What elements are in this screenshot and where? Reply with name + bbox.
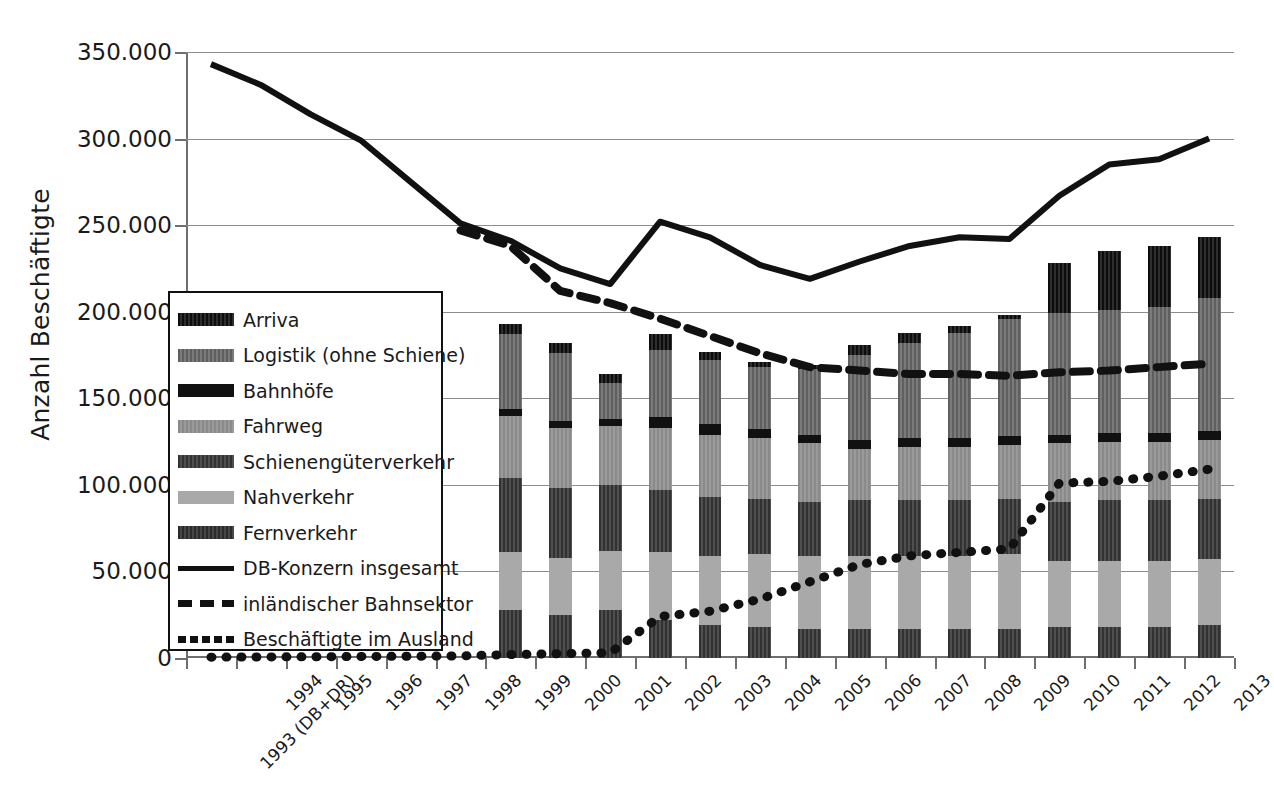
bar-segment (948, 438, 971, 447)
legend-item[interactable]: Fernverkehr (178, 515, 441, 551)
y-tick-label: 350.000 (77, 39, 172, 65)
x-tick-label: 2002 (681, 670, 726, 715)
bar-segment (599, 426, 622, 485)
bar-segment (699, 556, 722, 625)
bar-segment (1148, 500, 1171, 561)
y-tick-label: 100.000 (77, 472, 172, 498)
bar-segment (1198, 625, 1221, 658)
bar-column[interactable] (948, 326, 971, 658)
bar-segment (649, 350, 672, 418)
bar-segment (848, 440, 871, 449)
bar-column[interactable] (848, 345, 871, 658)
x-tick-label: 1997 (431, 670, 476, 715)
bar-segment (798, 629, 821, 658)
legend-item[interactable]: Beschäftigte im Ausland (178, 622, 441, 658)
bar-segment (848, 345, 871, 355)
bar-segment (798, 435, 821, 444)
gridline (186, 52, 1234, 53)
bar-segment (499, 416, 522, 478)
bar-segment (699, 352, 722, 361)
bar-column[interactable] (499, 324, 522, 658)
bar-segment (748, 362, 771, 367)
bar-column[interactable] (1048, 263, 1071, 658)
bar-segment (748, 499, 771, 554)
legend-swatch-icon (178, 491, 234, 504)
legend-solid-line-icon (178, 566, 234, 571)
bar-segment (948, 629, 971, 658)
y-tick-mark (175, 658, 186, 660)
y-tick-mark (175, 225, 186, 227)
bar-column[interactable] (748, 362, 771, 658)
x-tick-label: 2008 (980, 670, 1025, 715)
bar-column[interactable] (798, 365, 821, 658)
bar-segment (898, 333, 921, 343)
legend-label: Logistik (ohne Schiene) (243, 344, 465, 366)
bar-segment (998, 319, 1021, 437)
bar-segment (699, 360, 722, 424)
bar-segment (798, 443, 821, 502)
bar-segment (748, 627, 771, 658)
legend-item[interactable]: Schienengüterverkehr (178, 444, 441, 480)
bar-segment (649, 417, 672, 427)
bar-segment (1048, 502, 1071, 561)
legend-item[interactable]: Nahverkehr (178, 480, 441, 516)
legend-swatch-icon (178, 313, 234, 326)
x-tick-label: 1999 (531, 670, 576, 715)
bar-segment (649, 490, 672, 552)
bar-segment (948, 333, 971, 439)
bar-segment (748, 429, 771, 438)
legend-item[interactable]: inländischer Bahnsektor (178, 586, 441, 622)
bar-segment (1148, 442, 1171, 501)
bar-segment (1048, 263, 1071, 313)
bar-column[interactable] (1098, 251, 1121, 658)
bar-segment (1148, 433, 1171, 442)
legend-swatch-icon (178, 420, 234, 433)
bar-column[interactable] (649, 334, 672, 658)
bar-segment (649, 428, 672, 490)
bar-segment (998, 554, 1021, 628)
x-tick-label: 2005 (830, 670, 875, 715)
bar-segment (998, 629, 1021, 658)
legend-item[interactable]: Bahnhöfe (178, 373, 441, 409)
bar-segment (798, 369, 821, 435)
bar-column[interactable] (1148, 246, 1171, 658)
bar-segment (898, 343, 921, 438)
bar-segment (1098, 433, 1121, 442)
bar-column[interactable] (549, 343, 572, 658)
bar-column[interactable] (898, 333, 921, 659)
bar-segment (1148, 627, 1171, 658)
legend-label: Nahverkehr (243, 486, 354, 508)
bar-segment (1198, 559, 1221, 625)
bar-column[interactable] (699, 352, 722, 658)
legend-swatch-icon (178, 384, 234, 397)
y-tick-label: 50.000 (92, 558, 172, 584)
x-tick-label: 2001 (631, 670, 676, 715)
legend-item[interactable]: DB-Konzern insgesamt (178, 551, 441, 587)
bar-segment (1048, 435, 1071, 444)
bar-segment (699, 497, 722, 556)
legend-swatch-icon (178, 526, 234, 539)
bar-segment (549, 353, 572, 421)
bar-segment (599, 610, 622, 658)
x-tick-label: 2004 (781, 670, 826, 715)
bar-segment (499, 324, 522, 334)
bar-segment (948, 556, 971, 629)
bar-segment (1048, 561, 1071, 627)
bar-segment (848, 629, 871, 658)
bar-column[interactable] (1198, 237, 1221, 658)
bar-segment (1098, 500, 1121, 561)
bar-segment (599, 551, 622, 610)
bar-column[interactable] (599, 374, 622, 658)
legend-item[interactable]: Arriva (178, 302, 441, 338)
line-series (211, 64, 1209, 284)
x-tick-label: 2006 (880, 670, 925, 715)
bar-segment (499, 552, 522, 609)
bar-segment (798, 556, 821, 629)
legend-item[interactable]: Logistik (ohne Schiene) (178, 338, 441, 374)
x-tick-label: 1996 (381, 670, 426, 715)
bar-column[interactable] (998, 315, 1021, 658)
bar-segment (499, 409, 522, 416)
legend-item[interactable]: Fahrweg (178, 409, 441, 445)
bar-segment (1148, 246, 1171, 307)
